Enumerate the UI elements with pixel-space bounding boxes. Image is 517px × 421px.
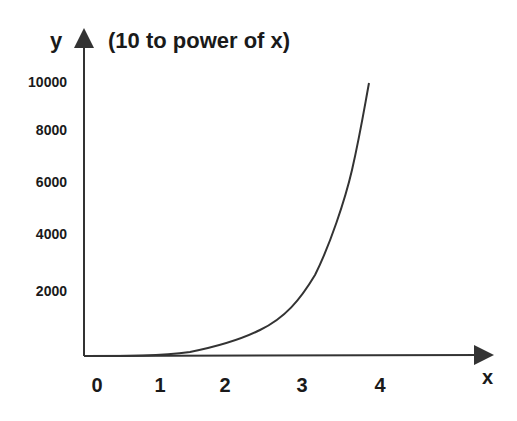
exponential-chart: y (10 to power of x) x 10000800060004000… — [0, 0, 517, 421]
y-tick-label: 6000 — [36, 174, 67, 190]
x-tick-label: 4 — [374, 374, 385, 397]
y-tick-label: 4000 — [36, 226, 67, 242]
y-tick-label: 10000 — [28, 74, 67, 90]
x-tick-label: 1 — [154, 374, 165, 397]
y-axis-label: y — [50, 28, 62, 54]
x-axis-label: x — [482, 366, 493, 389]
y-tick-label: 8000 — [36, 122, 67, 138]
x-tick-label: 2 — [219, 374, 230, 397]
x-tick-label: 0 — [91, 374, 102, 397]
exponential-curve — [84, 83, 369, 356]
x-tick-label: 3 — [296, 374, 307, 397]
plot-area — [0, 0, 517, 421]
chart-title: (10 to power of x) — [108, 28, 290, 54]
y-tick-label: 2000 — [36, 283, 67, 299]
